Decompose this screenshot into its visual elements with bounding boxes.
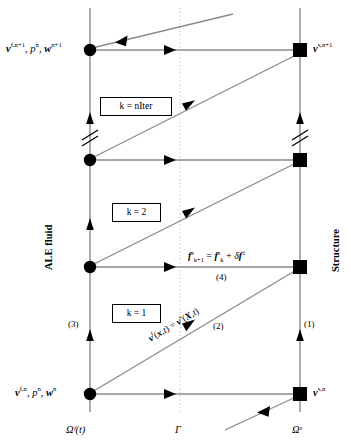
structure-state-label-top: vs,n+1 [313, 42, 332, 54]
step-number-4: (4) [216, 273, 227, 282]
iteration-box-k-1[interactable]: k = 1 [112, 304, 161, 323]
fluid-state-label-top: vf,n+1, pn, wn+1 [6, 42, 62, 54]
step-number-2: (2) [213, 322, 224, 331]
step-number-1: (1) [304, 320, 315, 329]
fluid-domain-label: Ωᶠ(t) [66, 425, 85, 436]
velocity-feedback-diagonal-bottom [225, 396, 298, 430]
step-number-3: (3) [68, 320, 79, 329]
velocity-transfer-diagonal-lower [92, 269, 298, 392]
structure-domain-label: Ωˢ [292, 425, 302, 436]
interface-domain-label: Γ [175, 425, 181, 436]
structure-axis-label: Structure [331, 229, 342, 272]
velocity-feedback-diagonal-top [92, 14, 233, 48]
force-transfer-arrow-bottom [92, 389, 296, 399]
iteration-box-k-niter[interactable]: k = nIter [100, 97, 172, 116]
iteration-box-k-2[interactable]: k = 2 [112, 203, 161, 222]
structure-state-label-bottom: vs,n [313, 386, 325, 398]
fsi-coupling-diagram: vf,n+1, pn, wn+1 vs,n+1 vf,n, pn, wn vs,… [0, 0, 351, 448]
force-transfer-arrow-second [92, 155, 296, 165]
force-transfer-arrow-top [92, 45, 296, 55]
force-update-equation: fsk+1 = fsk + δf1 [188, 250, 245, 264]
ale-fluid-axis-label: ALE fluid [44, 225, 55, 270]
fluid-state-label-bottom: vf,n, pn, wn [15, 386, 56, 398]
